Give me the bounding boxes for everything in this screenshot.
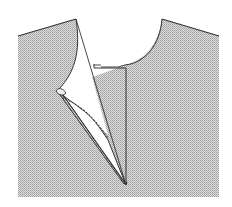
placket-top: [94, 65, 118, 67]
sewing-diagram: [0, 0, 232, 207]
